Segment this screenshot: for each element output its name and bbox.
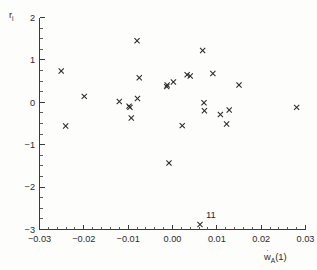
data-point-marker [218,112,223,117]
x-axis-title-suffix: (1) [275,251,286,262]
data-point-marker [236,82,241,87]
tick-marks [40,18,306,230]
data-point-marker [117,99,122,104]
data-point-marker [201,100,206,105]
x-tick-label: 0.02 [252,234,270,244]
plot-canvas: 210−1−2−3−0.03−0.02−0.010.000.010.020.03… [0,0,317,270]
x-tick-label: −0.01 [117,234,140,244]
data-point-marker [294,105,299,110]
data-points [59,38,300,227]
data-point-marker [63,123,68,128]
y-tick-label: −2 [25,182,35,192]
data-point-marker [180,123,185,128]
data-point-marker [224,121,229,126]
x-tick-label: 0.01 [208,234,226,244]
data-point-marker [135,96,140,101]
axes [40,18,306,230]
data-point-marker [137,75,142,80]
y-tick-label: 0 [30,98,35,108]
data-point-marker [202,108,207,113]
data-point-marker [82,94,87,99]
point-annotations: 11 [206,209,216,220]
data-point-marker [171,79,176,84]
data-point-marker [210,71,215,76]
x-tick-label: −0.02 [72,234,95,244]
y-tick-label: 1 [30,55,35,65]
x-tick-label: 0.00 [164,234,182,244]
y-axis-title-subscript: i [12,15,13,22]
data-point-marker [134,38,139,43]
x-axis-title: ̇wA(1) [264,252,287,264]
data-point-marker [166,160,171,165]
data-point-marker [59,68,64,73]
x-tick-label: −0.03 [28,234,51,244]
x-tick-label: 0.03 [297,234,315,244]
y-axis-title: ri [9,11,14,22]
data-point-marker [200,48,205,53]
y-tick-label: 2 [30,13,35,23]
data-point-annotation: 11 [206,209,216,220]
scatter-plot-figure: 210−1−2−3−0.03−0.02−0.010.000.010.020.03… [0,0,317,270]
data-point-marker [197,222,202,227]
x-axis-title-base: ̇w [264,252,271,261]
y-tick-label: −1 [25,140,35,150]
data-point-marker [227,107,232,112]
data-point-marker [129,115,134,120]
